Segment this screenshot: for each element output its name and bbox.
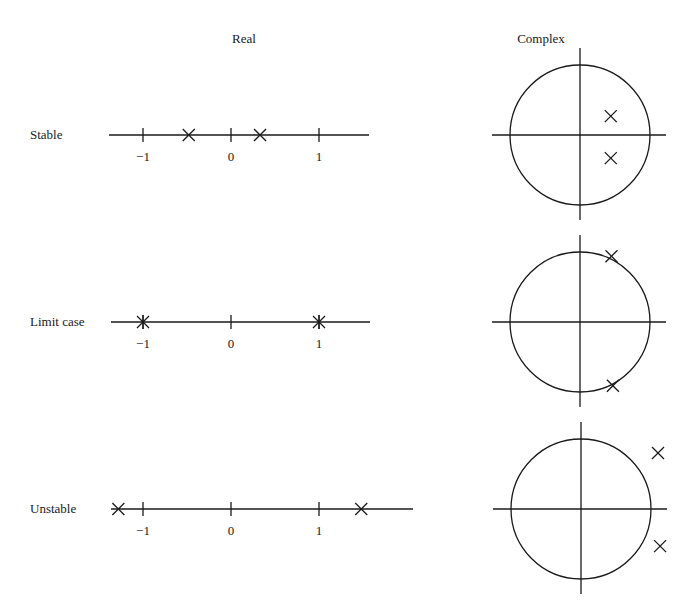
real-axis-limit-case: −101 xyxy=(111,315,370,351)
tick-label: −1 xyxy=(136,336,150,351)
tick-label: 1 xyxy=(316,149,323,164)
row-label-stable: Stable xyxy=(30,127,63,142)
real-axis-stable: −101 xyxy=(109,128,369,164)
complex-column-header: Complex xyxy=(517,31,565,46)
real-axis-unstable: −101 xyxy=(111,502,413,538)
tick-label: −1 xyxy=(136,149,150,164)
row-stable: Stable −101 xyxy=(30,48,666,220)
root-cross-icon xyxy=(605,152,617,164)
tick-label: 0 xyxy=(228,523,235,538)
row-label-unstable: Unstable xyxy=(30,501,76,516)
tick-label: 0 xyxy=(228,149,235,164)
tick-label: −1 xyxy=(136,523,150,538)
tick-label: 1 xyxy=(316,523,323,538)
row-limit-case: Limit case −101 xyxy=(30,235,666,407)
tick-label: 0 xyxy=(228,336,235,351)
root-cross-icon xyxy=(605,110,617,122)
row-unstable: Unstable −101 xyxy=(30,422,667,594)
complex-plane-stable xyxy=(492,48,666,220)
root-cross-icon xyxy=(654,540,666,552)
tick-label: 1 xyxy=(316,336,323,351)
complex-plane-unstable xyxy=(493,422,667,594)
root-cross-icon xyxy=(652,447,664,459)
root-locus-diagram: Real Complex Stable −101 Limit case −101… xyxy=(0,0,688,606)
root-cross-icon xyxy=(606,250,618,262)
row-label-limit-case: Limit case xyxy=(30,314,85,329)
complex-plane-limit-case xyxy=(492,235,666,407)
real-column-header: Real xyxy=(232,31,256,46)
